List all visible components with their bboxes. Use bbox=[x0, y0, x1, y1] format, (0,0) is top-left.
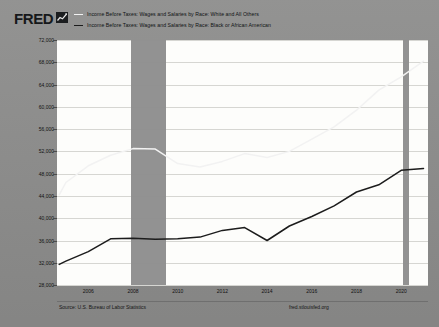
x-axis: 20062008201020122014201620182020 bbox=[57, 287, 428, 299]
y-axis-tick-label: 28,000 bbox=[5, 282, 57, 288]
y-axis-tick-label: 60,000 bbox=[5, 104, 57, 110]
legend-swatch-icon-black bbox=[74, 25, 83, 26]
x-axis-tick-label: 2012 bbox=[202, 287, 242, 295]
fred-chart-screenshot: FRED Income Before Taxes: Wages and Sala… bbox=[0, 0, 439, 327]
y-axis-tick-label: 52,000 bbox=[5, 148, 57, 154]
chart-legend: Income Before Taxes: Wages and Salaries … bbox=[74, 10, 271, 32]
legend-label-black: Income Before Taxes: Wages and Salaries … bbox=[87, 22, 271, 29]
series-line-white-and-all-others bbox=[59, 61, 423, 195]
y-axis: U.S. Dollars 72,00068,00064,00060,00056,… bbox=[0, 40, 57, 285]
x-axis-tick-label: 2018 bbox=[337, 287, 377, 295]
y-axis-tick-label: 40,000 bbox=[5, 215, 57, 221]
footer-divider bbox=[57, 301, 428, 302]
x-axis-tick-label: 2016 bbox=[292, 287, 332, 295]
y-axis-tick-label: 72,000 bbox=[5, 37, 57, 43]
legend-item-white-and-all-others[interactable]: Income Before Taxes: Wages and Salaries … bbox=[74, 10, 271, 19]
chart-header: FRED Income Before Taxes: Wages and Sala… bbox=[0, 0, 439, 36]
y-axis-tick-label: 68,000 bbox=[5, 59, 57, 65]
y-axis-tick-label: 36,000 bbox=[5, 238, 57, 244]
legend-label-white: Income Before Taxes: Wages and Salaries … bbox=[87, 11, 259, 18]
y-axis-tick-label: 56,000 bbox=[5, 126, 57, 132]
fred-logo: FRED bbox=[14, 11, 53, 26]
y-axis-tick-label: 44,000 bbox=[5, 193, 57, 199]
x-axis-tick-label: 2014 bbox=[247, 287, 287, 295]
legend-swatch-icon-white bbox=[74, 14, 83, 15]
y-axis-tick-label: 32,000 bbox=[5, 260, 57, 266]
series-line-black-or-african-american bbox=[59, 169, 423, 265]
gridline bbox=[57, 285, 428, 286]
data-series-lines bbox=[57, 40, 428, 285]
y-axis-tick-label: 48,000 bbox=[5, 171, 57, 177]
plot-area bbox=[57, 40, 428, 285]
x-axis-tick-label: 2020 bbox=[381, 287, 421, 295]
legend-item-black-or-african-american[interactable]: Income Before Taxes: Wages and Salaries … bbox=[74, 21, 271, 30]
x-axis-tick-label: 2010 bbox=[158, 287, 198, 295]
fred-chart-glyph-icon bbox=[56, 12, 68, 23]
x-axis-tick-label: 2006 bbox=[68, 287, 108, 295]
chart-footer: Source: U.S. Bureau of Labor Statistics … bbox=[57, 303, 428, 313]
x-axis-tick-label: 2008 bbox=[113, 287, 153, 295]
source-label: Source: U.S. Bureau of Labor Statistics bbox=[59, 304, 146, 310]
y-axis-tick-label: 64,000 bbox=[5, 82, 57, 88]
fred-url-label[interactable]: fred.stlouisfed.org bbox=[289, 304, 329, 310]
